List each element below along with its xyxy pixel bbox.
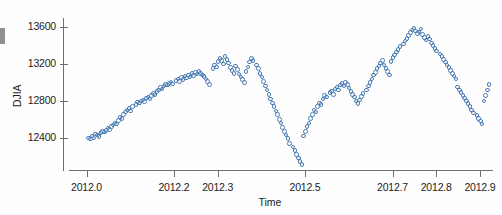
scatter-point bbox=[314, 110, 319, 115]
scatter-point bbox=[244, 69, 249, 74]
scatter-point bbox=[251, 58, 256, 63]
scatter-point bbox=[300, 162, 305, 167]
scatter-point bbox=[305, 124, 310, 129]
scatter-point bbox=[207, 82, 212, 87]
scatter-point bbox=[387, 73, 392, 78]
scatter-point bbox=[480, 122, 485, 127]
x-axis-label-text: Time bbox=[259, 196, 282, 208]
scatter-point bbox=[483, 93, 488, 98]
scatter-point bbox=[324, 95, 329, 100]
scatter-point bbox=[303, 129, 308, 134]
scatter-point bbox=[482, 99, 487, 104]
scatter-point bbox=[487, 82, 492, 87]
scatter-point bbox=[242, 80, 247, 85]
scatter-point bbox=[319, 102, 324, 107]
scatter-point bbox=[356, 101, 361, 106]
scatter-point bbox=[221, 62, 226, 67]
scatter-point bbox=[331, 92, 336, 97]
scatter-point bbox=[301, 134, 306, 139]
x-axis-label: Time bbox=[0, 196, 502, 208]
scatter-point bbox=[307, 121, 312, 126]
scatter-point bbox=[454, 77, 459, 82]
scatter-point bbox=[419, 27, 424, 32]
scatter-point bbox=[272, 104, 277, 109]
scatter-plot-area bbox=[0, 0, 502, 215]
scatter-point bbox=[370, 77, 375, 82]
djia-scatter-figure: DJIA 12400128001320013600 2012.02012.220… bbox=[0, 0, 502, 215]
scatter-point bbox=[364, 88, 369, 93]
scatter-point bbox=[336, 88, 341, 93]
scatter-point bbox=[128, 109, 133, 114]
scatter-point bbox=[246, 65, 251, 70]
scatter-point bbox=[485, 88, 490, 93]
scatter-point bbox=[380, 58, 385, 63]
scatter-point bbox=[214, 65, 219, 70]
